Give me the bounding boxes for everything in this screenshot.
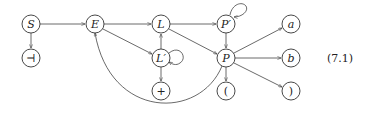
svg-text:a: a <box>288 18 295 31</box>
node-P-prime: P′ <box>217 15 235 33</box>
svg-text:L: L <box>156 18 164 31</box>
svg-text:L′: L′ <box>155 52 166 65</box>
node-P: P <box>217 49 235 67</box>
svg-text:E: E <box>90 18 99 31</box>
node-end: ⊣ <box>22 49 40 67</box>
node-E: E <box>86 15 104 33</box>
svg-text:P: P <box>221 52 230 65</box>
svg-text:+: + <box>156 85 165 98</box>
edge-Lp-loop <box>169 50 183 64</box>
node-lparen: ( <box>217 82 235 100</box>
equation-number: (7.1) <box>327 52 353 65</box>
svg-text:(: ( <box>224 85 228 98</box>
svg-text:P′: P′ <box>220 18 231 31</box>
node-b: b <box>282 49 300 67</box>
node-L: L <box>152 15 170 33</box>
node-plus: + <box>152 82 170 100</box>
edge-E-Lp <box>103 29 152 54</box>
edge-P-a <box>234 28 282 53</box>
node-S: S <box>22 15 40 33</box>
svg-text:b: b <box>287 52 294 65</box>
node-L-prime: L′ <box>152 49 170 67</box>
node-rparen: ) <box>282 82 300 100</box>
svg-text:): ) <box>289 85 293 98</box>
svg-text:⊣: ⊣ <box>26 52 35 65</box>
svg-text:S: S <box>27 18 35 31</box>
edge-Pp-loop <box>230 4 247 17</box>
edge-P-rparen <box>234 63 282 87</box>
grammar-graph: S ⊣ E L L′ + P′ P ( a b ) (7. <box>0 0 378 114</box>
node-a: a <box>282 15 300 33</box>
